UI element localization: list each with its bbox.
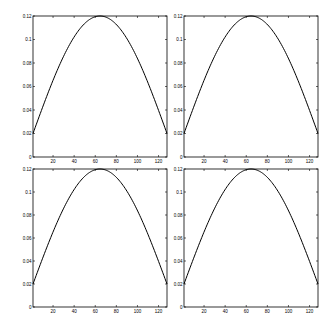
y-tick-label: 0.06 <box>174 84 183 89</box>
y-tick-label: 0.02 <box>174 131 183 136</box>
axes-frame <box>184 16 318 157</box>
y-tick-label: 0.12 <box>23 167 32 172</box>
data-line <box>184 16 318 134</box>
data-line <box>33 16 167 134</box>
x-tick-label: 60 <box>93 159 99 164</box>
subplot-top-right: 2040608010012000.020.040.060.080.10.12 <box>174 14 318 165</box>
y-tick-label: 0.1 <box>25 190 32 195</box>
subplot-top-left: 2040608010012000.020.040.060.080.10.12 <box>23 14 167 165</box>
x-tick-label: 60 <box>244 159 250 164</box>
y-tick-label: 0 <box>180 155 183 160</box>
x-tick-label: 60 <box>93 309 99 314</box>
y-tick-label: 0.02 <box>174 282 183 287</box>
x-tick-label: 80 <box>114 309 120 314</box>
axes-frame <box>184 169 318 307</box>
x-tick-label: 100 <box>285 309 293 314</box>
y-tick-label: 0.04 <box>174 108 183 113</box>
y-tick-label: 0.1 <box>25 37 32 42</box>
y-tick-label: 0.08 <box>174 61 183 66</box>
x-tick-label: 20 <box>51 309 57 314</box>
y-tick-label: 0.04 <box>23 259 32 264</box>
y-tick-label: 0.12 <box>174 14 183 19</box>
y-tick-label: 0 <box>29 305 32 310</box>
x-tick-label: 100 <box>134 159 142 164</box>
x-tick-label: 120 <box>155 159 163 164</box>
x-tick-label: 100 <box>134 309 142 314</box>
x-tick-label: 40 <box>72 309 78 314</box>
x-tick-label: 120 <box>306 309 314 314</box>
subplot-bottom-right: 2040608010012000.020.040.060.080.10.12 <box>174 167 318 315</box>
x-tick-label: 20 <box>202 159 208 164</box>
subplot-bottom-left: 2040608010012000.020.040.060.080.10.12 <box>23 167 167 315</box>
y-tick-label: 0.04 <box>23 108 32 113</box>
y-tick-label: 0 <box>180 305 183 310</box>
y-tick-label: 0.1 <box>176 190 183 195</box>
x-tick-label: 60 <box>244 309 250 314</box>
figure-2x2-grid: 2040608010012000.020.040.060.080.10.1220… <box>0 0 336 329</box>
x-tick-label: 20 <box>51 159 57 164</box>
y-tick-label: 0.06 <box>174 236 183 241</box>
y-tick-label: 0.12 <box>174 167 183 172</box>
figure-canvas: 2040608010012000.020.040.060.080.10.1220… <box>0 0 336 329</box>
data-line <box>184 169 318 284</box>
y-tick-label: 0.02 <box>23 282 32 287</box>
x-tick-label: 100 <box>285 159 293 164</box>
y-tick-label: 0.02 <box>23 131 32 136</box>
y-tick-label: 0.08 <box>23 213 32 218</box>
y-tick-label: 0.06 <box>23 84 32 89</box>
data-line <box>33 169 167 284</box>
y-tick-label: 0.1 <box>176 37 183 42</box>
x-tick-label: 120 <box>155 309 163 314</box>
y-tick-label: 0.04 <box>174 259 183 264</box>
x-tick-label: 40 <box>223 309 229 314</box>
x-tick-label: 40 <box>223 159 229 164</box>
axes-frame <box>33 169 167 307</box>
y-tick-label: 0 <box>29 155 32 160</box>
y-tick-label: 0.08 <box>174 213 183 218</box>
x-tick-label: 80 <box>265 159 271 164</box>
x-tick-label: 120 <box>306 159 314 164</box>
x-tick-label: 80 <box>265 309 271 314</box>
y-tick-label: 0.08 <box>23 61 32 66</box>
y-tick-label: 0.06 <box>23 236 32 241</box>
axes-frame <box>33 16 167 157</box>
x-tick-label: 80 <box>114 159 120 164</box>
x-tick-label: 20 <box>202 309 208 314</box>
y-tick-label: 0.12 <box>23 14 32 19</box>
x-tick-label: 40 <box>72 159 78 164</box>
